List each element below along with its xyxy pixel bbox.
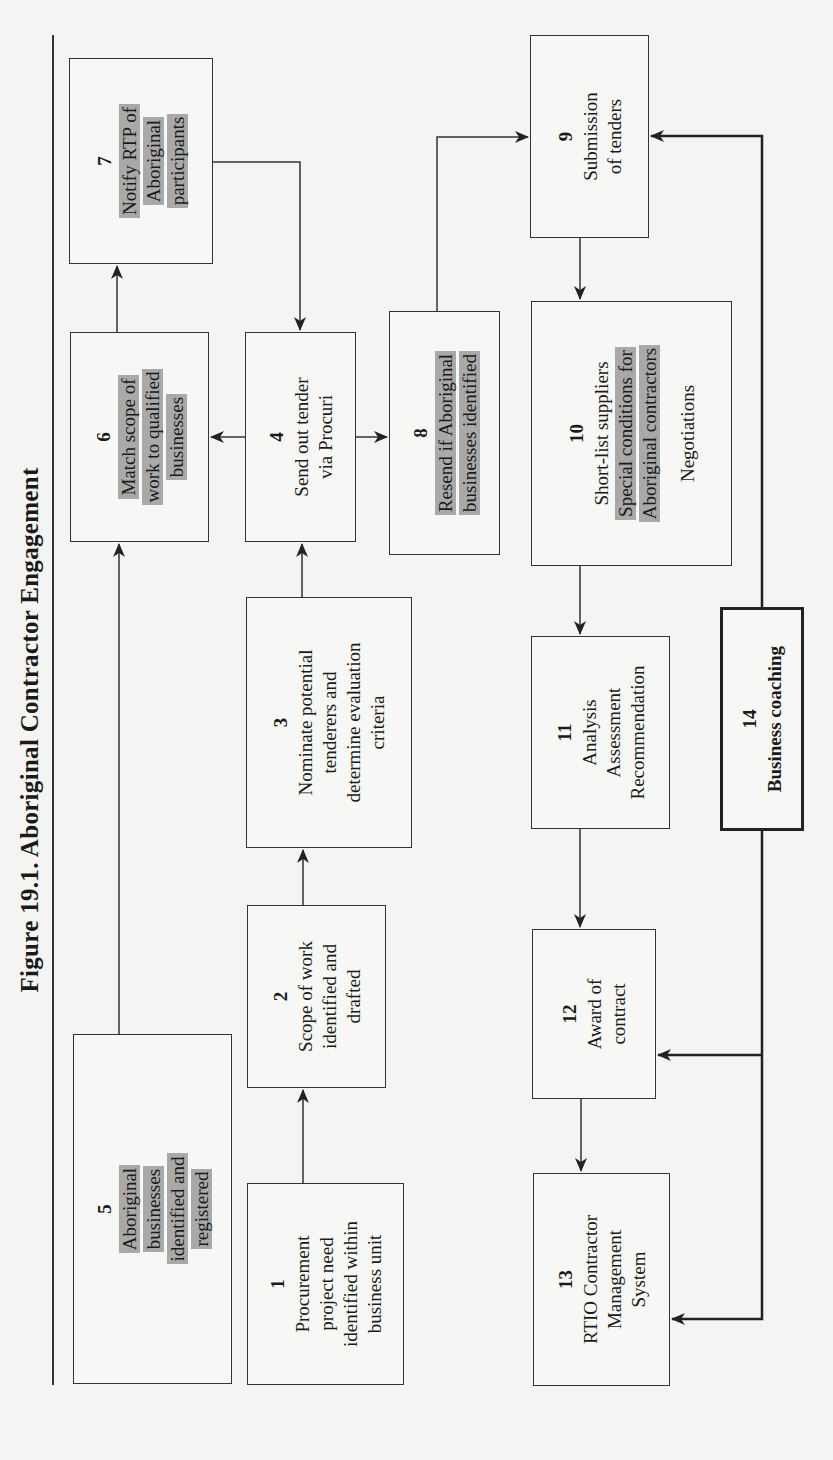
step-label-line: Award of xyxy=(583,979,607,1050)
arrow-8-to-9 xyxy=(437,137,528,311)
highlighted-label-line: businesses identified xyxy=(459,351,480,515)
step-label-line: Management xyxy=(603,1230,627,1329)
step-label-line: Recommendation xyxy=(626,665,650,799)
highlighted-label-line: Notify RTP of xyxy=(119,104,140,218)
step-8-box: 8 Resend if Aboriginal businesses identi… xyxy=(389,311,500,555)
highlighted-label-line: participants xyxy=(167,114,188,209)
step-number: 10 xyxy=(564,424,590,443)
step-number: 6 xyxy=(91,432,117,442)
step-label-line: Submission xyxy=(579,92,603,181)
step-5-box: 5 Aboriginal businesses identified and r… xyxy=(73,1034,232,1384)
step-label-line: via Procuri xyxy=(314,395,338,479)
step-label-line: identified and xyxy=(318,944,342,1049)
step-label-line: Negotiations xyxy=(676,385,700,482)
step-label-line: Scope of work xyxy=(294,941,318,1052)
highlighted-label-line: Aboriginal xyxy=(143,117,164,205)
figure-title: Figure 19.1. Aboriginal Contractor Engag… xyxy=(16,0,50,1460)
step-7-box: 7 Notify RTP of Aboriginal participants xyxy=(69,58,213,264)
step-number: 2 xyxy=(268,992,294,1002)
step-label-line: tenderers and xyxy=(318,672,342,774)
highlighted-label-line: businesses xyxy=(143,1166,164,1252)
step-label-line: criteria xyxy=(366,696,390,750)
step-number: 12 xyxy=(557,1005,583,1024)
step-label-line: project need xyxy=(315,1237,339,1330)
highlighted-label-line: Resend if Aboriginal xyxy=(435,351,456,515)
step-label-line: Short-list suppliers xyxy=(590,361,614,505)
step-12-box: 12 Award of contract xyxy=(532,929,656,1099)
step-number: 5 xyxy=(92,1204,118,1214)
step-label-line: Nominate potential xyxy=(294,649,318,795)
step-number: 7 xyxy=(92,156,118,166)
step-3-box: 3 Nominate potential tenderers and deter… xyxy=(246,597,412,848)
title-rule xyxy=(52,35,54,1385)
step-9-box: 9 Submission of tenders xyxy=(530,35,649,238)
highlighted-label-line: businesses xyxy=(166,394,187,480)
step-label-line: Analysis xyxy=(578,699,602,766)
step-label-line: Procurement xyxy=(291,1235,315,1332)
step-11-box: 11 Analysis Assessment Recommendation xyxy=(531,636,670,829)
highlighted-label-line: Aboriginal xyxy=(119,1165,140,1253)
step-4-box: 4 Send out tender via Procuri xyxy=(245,332,356,542)
step-number: 4 xyxy=(264,432,290,442)
step-label-line: contract xyxy=(607,983,631,1044)
highlighted-label-line: identified and xyxy=(167,1154,188,1265)
step-number: 3 xyxy=(268,718,294,728)
highlighted-label-line: Match scope of xyxy=(118,375,139,498)
highlighted-label-line: Aboriginal contractors xyxy=(639,345,660,522)
step-number: 11 xyxy=(552,724,578,742)
highlighted-label-line: registered xyxy=(191,1169,212,1250)
step-label-line: of tenders xyxy=(603,99,627,174)
highlighted-label-line: Special conditions for xyxy=(615,347,636,520)
step-label-line: business unit xyxy=(363,1235,387,1334)
step-label-line: identified within xyxy=(339,1221,363,1347)
step-number: 1 xyxy=(265,1279,291,1289)
highlighted-label-line: work to qualified xyxy=(142,369,163,506)
arrow-7-to-4 xyxy=(213,162,300,330)
step-number: 14 xyxy=(737,710,763,729)
step-number: 13 xyxy=(553,1270,579,1289)
line-14-trunk xyxy=(672,831,762,1319)
step-13-box: 13 RTIO Contractor Management System xyxy=(533,1173,670,1386)
step-14-box: 14 Business coaching xyxy=(720,607,804,831)
step-label-line: Send out tender xyxy=(290,377,314,496)
step-10-box: 10 Short-list suppliers Special conditio… xyxy=(531,301,732,566)
step-number: 9 xyxy=(553,132,579,142)
step-label-line: System xyxy=(627,1252,651,1308)
step-1-box: 1 Procurement project need identified wi… xyxy=(247,1183,404,1385)
step-number: 8 xyxy=(408,428,434,438)
step-label-line: determine evaluation xyxy=(342,643,366,803)
step-label-line: Business coaching xyxy=(763,646,787,792)
step-label-line: RTIO Contractor xyxy=(579,1215,603,1344)
step-label-line: drafted xyxy=(342,970,366,1024)
step-2-box: 2 Scope of work identified and drafted xyxy=(247,905,386,1088)
flowchart-canvas: Figure 19.1. Aboriginal Contractor Engag… xyxy=(0,0,833,1460)
step-label-line: Assessment xyxy=(602,688,626,778)
step-6-box: 6 Match scope of work to qualified busin… xyxy=(70,332,209,542)
